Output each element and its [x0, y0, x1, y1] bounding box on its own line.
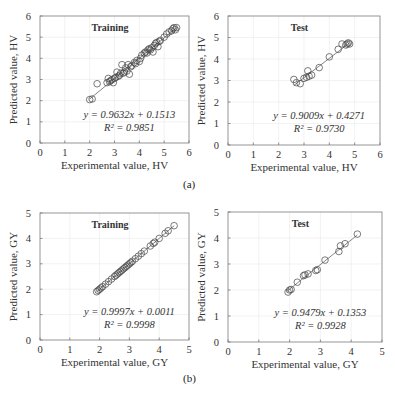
y-tick-label: 2: [214, 97, 219, 108]
x-tick-label: 1: [256, 346, 261, 357]
x-tick-label: 0: [225, 149, 230, 160]
y-tick-label: 3: [26, 74, 31, 85]
y-tick-label: 4: [214, 54, 220, 65]
x-tick-label: 2: [97, 344, 102, 355]
r-squared: R² = 0.9928: [294, 320, 347, 331]
chart-a-test: 01234560123456Experimental value, HVPred…: [195, 11, 383, 174]
x-tick-label: 1: [67, 344, 72, 355]
x-tick-label: 4: [327, 149, 333, 160]
x-tick-label: 4: [349, 346, 355, 357]
x-tick-label: 5: [186, 344, 191, 355]
x-tick-label: 0: [37, 147, 42, 158]
regression-equation: y = 0.9009x + 0.4271: [272, 110, 365, 121]
y-tick-label: 0: [214, 140, 219, 151]
x-tick-label: 1: [62, 147, 67, 158]
x-tick-label: 0: [225, 346, 230, 357]
panel-title: Training: [92, 219, 129, 230]
y-tick-label: 3: [214, 75, 219, 86]
y-tick-label: 5: [214, 32, 219, 43]
x-tick-label: 2: [87, 147, 92, 158]
data-point: [294, 279, 301, 286]
x-axis-title: Experimental value, HV: [250, 161, 357, 173]
x-axis-title: Experimental value, HV: [61, 159, 168, 171]
caption-b: (b): [183, 372, 196, 384]
x-tick-label: 5: [352, 149, 357, 160]
y-tick-label: 1: [214, 311, 219, 322]
x-tick-label: 4: [157, 344, 163, 355]
regression-equation: y = 0.9479x + 0.1353: [274, 307, 367, 318]
data-point: [94, 80, 101, 87]
y-axis-title: Predicted value, HV: [195, 36, 207, 126]
x-tick-label: 1: [251, 149, 256, 160]
y-tick-label: 1: [26, 309, 31, 320]
r-squared: R² = 0.9998: [103, 319, 156, 330]
regression-equation: y = 0.9997x + 0.0011: [83, 306, 175, 317]
y-tick-label: 6: [214, 11, 219, 22]
y-tick-label: 2: [214, 285, 219, 296]
panel-title: Test: [292, 218, 310, 229]
x-tick-label: 6: [377, 149, 382, 160]
y-axis-title: Predicted value, HV: [7, 35, 19, 125]
x-tick-label: 3: [127, 344, 132, 355]
y-tick-label: 0: [214, 337, 219, 348]
chart-b-test: 012345012345Experimental value, GYPredic…: [195, 207, 385, 371]
y-tick-label: 1: [214, 118, 219, 129]
x-axis-title: Experimental value, GY: [61, 356, 168, 368]
y-tick-label: 4: [26, 233, 32, 244]
trendline: [90, 28, 177, 99]
r-squared: R² = 0.9730: [293, 123, 346, 134]
x-tick-label: 6: [186, 147, 191, 158]
figure-canvas: 01234560123456Experimental value, HVPred…: [0, 0, 395, 397]
data-point: [322, 257, 329, 264]
x-tick-label: 3: [318, 346, 323, 357]
data-point: [171, 222, 178, 229]
y-tick-label: 3: [214, 259, 219, 270]
panel-title: Training: [92, 22, 129, 33]
y-tick-label: 2: [26, 95, 31, 106]
y-tick-label: 5: [214, 207, 219, 218]
r-squared: R² = 0.9851: [103, 122, 155, 133]
y-tick-label: 5: [26, 32, 31, 43]
y-tick-label: 1: [26, 116, 31, 127]
y-tick-label: 2: [26, 284, 31, 295]
x-tick-label: 3: [112, 147, 117, 158]
panel-title: Test: [291, 22, 309, 33]
caption-a: (a): [183, 178, 195, 190]
y-axis-title: Predicted value, GY: [195, 232, 207, 322]
chart-a-train: 01234560123456Experimental value, HVPred…: [7, 11, 192, 172]
x-tick-label: 2: [276, 149, 281, 160]
x-tick-label: 2: [287, 346, 292, 357]
x-tick-label: 5: [162, 147, 167, 158]
regression-equation: y = 0.9632x + 0.1513: [83, 109, 176, 120]
y-tick-label: 0: [26, 335, 31, 346]
x-tick-label: 3: [301, 149, 306, 160]
x-tick-label: 4: [137, 147, 143, 158]
y-tick-label: 4: [26, 53, 32, 64]
trendline: [287, 235, 358, 292]
y-tick-label: 6: [26, 11, 31, 22]
y-tick-label: 4: [214, 233, 220, 244]
x-tick-label: 5: [379, 346, 384, 357]
chart-b-train: 012345012345Experimental value, GYPredic…: [7, 208, 192, 369]
x-tick-label: 0: [37, 344, 42, 355]
x-axis-title: Experimental value, GY: [251, 358, 358, 370]
y-tick-label: 5: [26, 208, 31, 219]
y-tick-label: 0: [26, 138, 31, 149]
y-axis-title: Predicted value, GY: [7, 232, 19, 322]
y-tick-label: 3: [26, 258, 31, 269]
data-point: [354, 231, 361, 238]
